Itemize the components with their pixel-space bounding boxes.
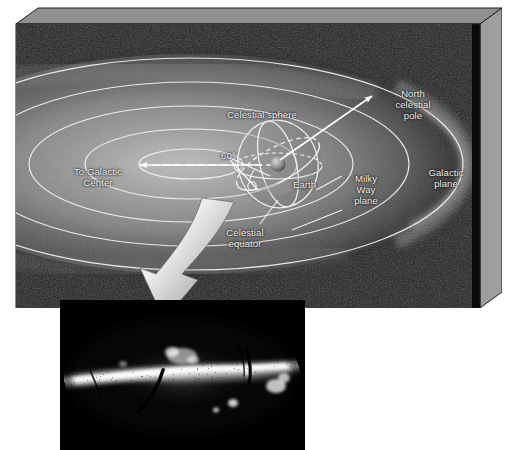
all-sky-map-drawing <box>60 300 305 450</box>
astronomy-figure: Celestial sphere North celestial pole To… <box>0 0 508 450</box>
diagram-front-face: Celestial sphere North celestial pole To… <box>16 24 472 308</box>
earth-sphere <box>270 156 285 171</box>
all-sky-milky-way-panel <box>60 300 305 450</box>
galaxy-diagram-box: Celestial sphere North celestial pole To… <box>8 4 502 308</box>
galaxy-diagram-drawing <box>16 24 472 308</box>
